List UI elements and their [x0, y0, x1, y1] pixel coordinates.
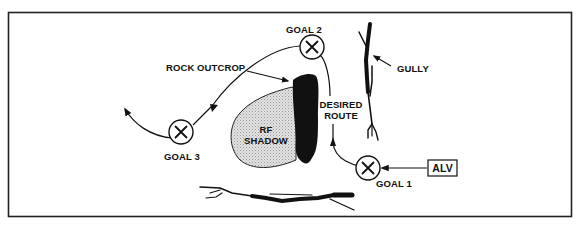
desired-route-label-line1: DESIRED [320, 99, 363, 110]
goal-1-marker [356, 156, 380, 180]
goal-3-marker [169, 120, 193, 144]
rock-outcrop-label: ROCK OUTCROP [166, 62, 246, 73]
route-diagram: ALV GOAL 2 ROCK OUTCROP GULLY RF SHADOW … [0, 0, 578, 228]
goal-2-label: GOAL 2 [286, 24, 322, 35]
route-arrow-goal3 [210, 104, 218, 112]
route-goal3-exit [125, 109, 172, 138]
route-upper-segment [320, 55, 330, 96]
rock-outcrop-callout-arrow [247, 71, 288, 81]
bottom-gully-shape [200, 187, 354, 210]
goal-1-label: GOAL 1 [376, 178, 412, 189]
rf-shadow-label-line1: RF [260, 124, 273, 135]
rock-outcrop-shape [293, 74, 319, 164]
rf-shadow-label-line2: SHADOW [244, 135, 288, 146]
goal-2-marker [300, 35, 324, 59]
goal-3-label: GOAL 3 [164, 151, 200, 162]
gully-label: GULLY [397, 63, 429, 74]
alv-label: ALV [432, 162, 453, 174]
gully-callout-arrow [374, 56, 391, 66]
gully-shape [359, 24, 378, 140]
route-arrow-up [330, 137, 336, 146]
desired-route-label-line2: ROUTE [324, 110, 358, 121]
